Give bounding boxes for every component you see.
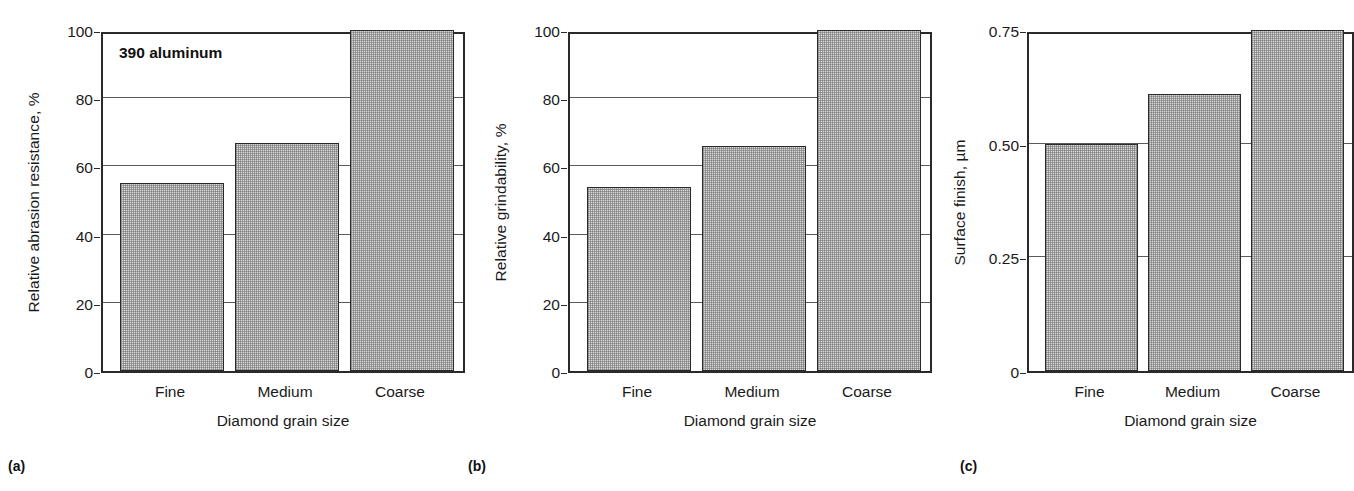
y-tick-label: 100 [534, 23, 560, 41]
y-tick-mark [1020, 259, 1026, 260]
y-tick-mark [561, 32, 567, 33]
x-category-label-fine: Fine [1074, 383, 1104, 401]
y-tick-label: 40 [543, 228, 560, 246]
x-category-label-medium: Medium [724, 383, 779, 401]
bar-fine [587, 187, 691, 371]
y-tick-label: 60 [76, 159, 93, 177]
plot-area [1027, 32, 1354, 373]
y-tick-mark [94, 32, 100, 33]
chart-panel-a: Relative abrasion resistance, %020406080… [0, 0, 451, 491]
x-category-label-medium: Medium [257, 383, 312, 401]
x-category-label-fine: Fine [155, 383, 185, 401]
chart-annotation: 390 aluminum [119, 44, 222, 62]
y-tick-label: 0.25 [989, 250, 1019, 268]
y-tick-mark [561, 237, 567, 238]
x-category-label-fine: Fine [622, 383, 652, 401]
y-tick-mark [561, 373, 567, 374]
bar-medium [235, 143, 339, 371]
y-tick-label: 20 [76, 296, 93, 314]
x-category-label-coarse: Coarse [842, 383, 892, 401]
plot-area [101, 32, 465, 373]
y-tick-mark [1020, 373, 1026, 374]
y-tick-label: 60 [543, 159, 560, 177]
y-axis-title-text: Relative abrasion resistance, % [25, 32, 47, 373]
bar-fine [120, 183, 224, 371]
y-tick-label: 100 [67, 23, 93, 41]
y-tick-mark [94, 305, 100, 306]
y-axis-title-text: Relative grindability, % [492, 32, 514, 373]
y-axis-title: Surface finish, µm [951, 32, 973, 373]
x-category-label-coarse: Coarse [375, 383, 425, 401]
y-tick-label: 0 [551, 364, 560, 382]
chart-panel-b: Relative grindability, %020406080100Fine… [451, 0, 902, 491]
y-tick-label: 40 [76, 228, 93, 246]
y-axis-title: Relative abrasion resistance, % [25, 32, 47, 373]
y-tick-label: 20 [543, 296, 560, 314]
x-axis-title: Diamond grain size [568, 412, 932, 430]
y-tick-mark [561, 305, 567, 306]
y-tick-mark [561, 168, 567, 169]
panel-tag: (c) [960, 458, 977, 474]
y-tick-mark [94, 100, 100, 101]
y-tick-label: 0.50 [989, 137, 1019, 155]
y-tick-mark [94, 373, 100, 374]
x-axis-title: Diamond grain size [101, 412, 465, 430]
x-axis-title: Diamond grain size [1027, 412, 1354, 430]
y-axis-title: Relative grindability, % [492, 32, 514, 373]
y-tick-label: 0 [84, 364, 93, 382]
y-tick-label: 0 [1010, 364, 1019, 382]
bar-coarse [1251, 30, 1344, 371]
y-tick-mark [1020, 146, 1026, 147]
panel-tag: (b) [468, 458, 486, 474]
bar-medium [1148, 94, 1241, 371]
x-category-label-coarse: Coarse [1271, 383, 1321, 401]
figure-three-bar-charts: Relative abrasion resistance, %020406080… [0, 0, 1354, 491]
bar-fine [1045, 144, 1138, 371]
y-tick-mark [1020, 32, 1026, 33]
y-tick-label: 80 [543, 91, 560, 109]
bar-medium [702, 146, 806, 371]
y-tick-mark [94, 237, 100, 238]
y-tick-mark [561, 100, 567, 101]
y-tick-label: 80 [76, 91, 93, 109]
panel-tag: (a) [8, 458, 25, 474]
y-tick-label: 0.75 [989, 23, 1019, 41]
bar-coarse [350, 30, 454, 371]
y-axis-title-text: Surface finish, µm [951, 32, 973, 373]
y-tick-mark [94, 168, 100, 169]
plot-area [568, 32, 932, 373]
chart-panel-c: Surface finish, µm00.250.500.75FineMediu… [903, 0, 1354, 491]
x-category-label-medium: Medium [1165, 383, 1220, 401]
